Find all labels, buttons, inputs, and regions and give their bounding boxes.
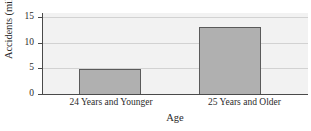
x-axis-title: Age bbox=[42, 112, 308, 123]
y-axis-title: Accidents (millions) bbox=[3, 0, 17, 63]
bar-25-years-and-older[interactable] bbox=[199, 27, 261, 95]
y-tick-label-5: 5 bbox=[18, 63, 34, 73]
y-axis-tick-labels: 15 10 5 0 bbox=[16, 0, 34, 131]
gridline-10 bbox=[42, 43, 308, 44]
category-label-0: 24 Years and Younger bbox=[36, 96, 186, 108]
y-tick-label-0: 0 bbox=[18, 89, 34, 99]
y-axis-line bbox=[42, 13, 43, 95]
x-axis-category-labels: 24 Years and Younger 25 Years and Older bbox=[42, 96, 308, 110]
bar-24-years-and-younger[interactable] bbox=[79, 69, 141, 95]
category-label-1: 25 Years and Older bbox=[172, 96, 311, 108]
y-tick-label-15: 15 bbox=[18, 12, 34, 22]
bar-chart: Accidents (millions) 15 10 5 0 24 Years … bbox=[0, 0, 311, 131]
gridline-15 bbox=[42, 17, 308, 18]
y-tick-label-10: 10 bbox=[18, 38, 34, 48]
plot-area bbox=[42, 13, 308, 95]
x-axis-line bbox=[42, 94, 308, 95]
